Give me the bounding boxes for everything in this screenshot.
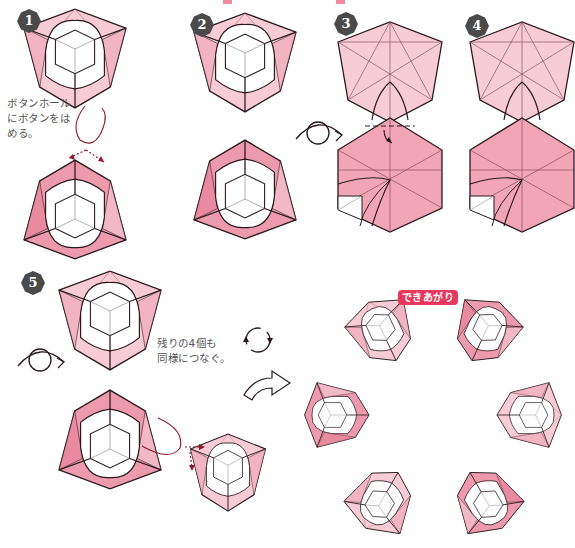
- step-number: 2: [190, 13, 214, 37]
- finished-ring: [305, 289, 562, 545]
- origami-diagram: 1 2 3 4 5 ボタンホール にボタンをは める。 残りの4個も 同様につな…: [0, 0, 575, 548]
- diagram-art: [0, 0, 575, 548]
- step-5-note: 残りの4個も 同様につなぐ。: [157, 336, 231, 366]
- step-4-figure: [470, 22, 574, 232]
- step-5-badge: 5: [21, 271, 45, 295]
- step-1-badge: 1: [17, 9, 41, 33]
- step-2-badge: 2: [190, 13, 214, 37]
- step-number: 1: [17, 9, 41, 33]
- step-number: 3: [334, 12, 358, 36]
- step-3-badge: 3: [334, 12, 358, 36]
- rotate-icon: [243, 328, 273, 352]
- step-5-figure: [18, 271, 290, 511]
- step-4-badge: 4: [465, 14, 489, 38]
- step-3-figure: [296, 22, 442, 232]
- step-2-figure: [194, 13, 296, 239]
- finished-label: できあがり: [398, 290, 458, 305]
- step-number: 4: [465, 14, 489, 38]
- step-1-note: ボタンホール にボタンをは める。: [7, 96, 70, 141]
- step-number: 5: [21, 271, 45, 295]
